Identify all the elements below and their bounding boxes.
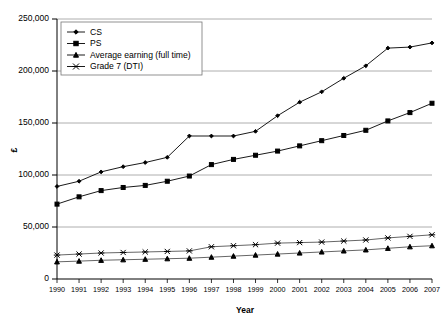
x-axis-title: Year [236, 305, 255, 315]
legend-label: Grade 7 (DTI) [90, 61, 143, 71]
x-tick-label: 2005 [380, 285, 396, 294]
x-axis-ticks [57, 279, 432, 283]
x-tick-label: 2000 [270, 285, 286, 294]
x-tick-label: 1999 [248, 285, 264, 294]
data-point-cross [407, 234, 413, 239]
data-point-triangle [253, 253, 258, 258]
chart-legend: CSPSAverage earning (full time)Grade 7 (… [61, 22, 202, 75]
chart-container: 050,000100,000150,000200,000250,000 1990… [0, 0, 442, 322]
data-point-diamond [121, 165, 125, 169]
x-tick-label: 1997 [203, 285, 219, 294]
data-point-square [74, 41, 78, 45]
x-tick-label: 2003 [336, 285, 352, 294]
data-point-cross [230, 243, 236, 248]
x-tick-label: 1996 [181, 285, 197, 294]
x-axis-tick-labels: 1990199119921993199419951996199719981999… [49, 285, 440, 294]
x-tick-label: 2002 [314, 285, 330, 294]
data-point-triangle [99, 258, 104, 263]
data-point-square [386, 119, 390, 123]
x-tick-label: 2001 [292, 285, 308, 294]
data-point-cross [208, 244, 214, 249]
data-point-triangle [430, 243, 435, 248]
data-point-square [320, 139, 324, 143]
x-tick-label: 1991 [71, 285, 87, 294]
data-point-cross [274, 241, 280, 246]
y-tick-label: 200,000 [18, 65, 49, 75]
data-point-cross [296, 240, 302, 245]
x-tick-label: 2004 [358, 285, 374, 294]
data-point-cross [164, 249, 170, 254]
data-point-triangle [143, 257, 148, 262]
data-point-triangle [55, 259, 60, 264]
data-point-square [77, 195, 81, 199]
data-point-cross [76, 251, 82, 256]
data-point-triangle [187, 256, 192, 261]
data-point-cross [252, 242, 258, 247]
data-point-square [231, 157, 235, 161]
data-point-diamond [99, 170, 103, 174]
data-point-square [276, 149, 280, 153]
x-tick-label: 2007 [424, 285, 440, 294]
data-point-cross [385, 235, 391, 240]
data-point-square [55, 202, 59, 206]
x-tick-label: 1993 [115, 285, 131, 294]
data-point-square [165, 179, 169, 183]
data-point-cross [98, 250, 104, 255]
data-point-triangle [121, 257, 126, 262]
data-point-diamond [232, 134, 236, 138]
data-point-square [254, 153, 258, 157]
data-point-cross [429, 232, 435, 237]
data-point-cross [363, 237, 369, 242]
legend-label: Average earning (full time) [90, 50, 191, 60]
data-point-diamond [77, 179, 81, 183]
data-point-triangle [385, 246, 390, 251]
x-tick-label: 1998 [225, 285, 241, 294]
data-point-diamond [210, 134, 214, 138]
line-chart: 050,000100,000150,000200,000250,000 1990… [0, 0, 442, 322]
data-point-diamond [143, 161, 147, 165]
series-grade-7-dti [54, 232, 435, 257]
series-average-earning-full-time [55, 243, 435, 264]
data-point-cross [186, 248, 192, 253]
y-tick-label: 0 [44, 273, 49, 283]
data-point-triangle [408, 244, 413, 249]
data-point-square [187, 174, 191, 178]
data-point-triangle [77, 259, 82, 264]
x-tick-label: 1992 [93, 285, 109, 294]
series-line [57, 235, 432, 255]
y-tick-label: 150,000 [18, 117, 49, 127]
data-point-square [430, 101, 434, 105]
data-point-square [342, 133, 346, 137]
series-ps [55, 101, 434, 206]
data-point-square [364, 128, 368, 132]
data-point-square [408, 111, 412, 115]
legend-label: CS [90, 27, 102, 37]
data-point-triangle [275, 252, 280, 257]
x-tick-label: 1990 [49, 285, 65, 294]
legend-label: PS [90, 38, 102, 48]
data-point-triangle [341, 248, 346, 253]
x-tick-label: 1994 [137, 285, 153, 294]
y-axis-ticks [52, 19, 57, 279]
data-point-triangle [165, 256, 170, 261]
y-tick-label: 50,000 [23, 221, 49, 231]
data-point-square [99, 189, 103, 193]
data-point-diamond [408, 45, 412, 49]
data-point-diamond [430, 41, 434, 45]
data-point-diamond [55, 185, 59, 189]
y-axis-title: £ [9, 147, 19, 152]
data-point-square [209, 163, 213, 167]
series-line [57, 246, 432, 262]
y-tick-label: 250,000 [18, 13, 49, 23]
data-point-cross [120, 250, 126, 255]
data-point-triangle [209, 255, 214, 260]
data-point-square [298, 144, 302, 148]
data-point-cross [341, 238, 347, 243]
y-tick-label: 100,000 [18, 169, 49, 179]
data-point-triangle [363, 247, 368, 252]
x-tick-label: 1995 [159, 285, 175, 294]
y-axis-tick-labels: 050,000100,000150,000200,000250,000 [18, 13, 49, 283]
data-point-cross [142, 249, 148, 254]
data-point-square [121, 185, 125, 189]
data-point-square [143, 183, 147, 187]
